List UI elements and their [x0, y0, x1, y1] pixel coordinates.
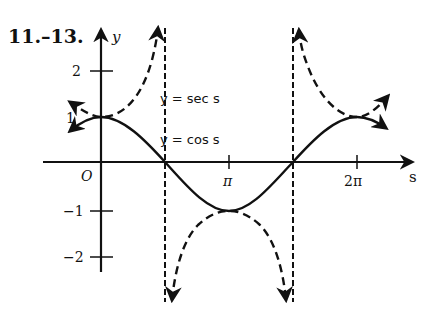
sec-branch-right	[299, 30, 388, 117]
x-axis: s π 2π	[43, 155, 417, 189]
sec-branch-middle	[172, 211, 286, 300]
cos-curve	[70, 117, 386, 211]
y-axis-label: y	[111, 28, 121, 46]
graph-figure: 11.–13. s π 2π y 2 1 −1 −2 O y = sec s y…	[0, 0, 434, 318]
y-axis: y 2 1 −1 −2 O	[63, 28, 121, 272]
cos-label: y = cos s	[160, 132, 220, 147]
tick-label-pi: π	[222, 173, 233, 189]
tick-label-y-1: 1	[66, 110, 75, 126]
tick-label-2pi: 2π	[344, 173, 362, 189]
tick-label-y-neg2: −2	[63, 249, 84, 265]
x-axis-label: s	[409, 168, 417, 186]
origin-label: O	[81, 168, 93, 184]
tick-label-y-neg1: −1	[63, 203, 84, 219]
figure-title: 11.–13.	[8, 25, 84, 47]
sec-label: y = sec s	[160, 91, 220, 106]
tick-label-y-2: 2	[72, 63, 81, 79]
